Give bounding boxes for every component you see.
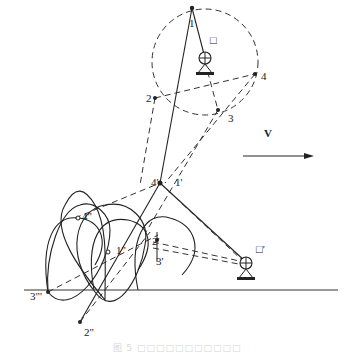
figure-caption: 图 5 □□□□□□□□□□□ <box>0 341 354 354</box>
dashed-construction-lines <box>48 62 255 322</box>
label-4-prime: 4' <box>151 176 159 188</box>
loop-1 <box>46 218 102 292</box>
pivot-bottom-icon <box>237 257 255 280</box>
label-2: 2 <box>146 92 152 104</box>
label-1: 1 <box>189 17 195 29</box>
label-4-double-prime: 4" <box>82 210 92 222</box>
label-pivot-bottom: □' <box>256 243 265 255</box>
pivot-top-icon <box>196 52 214 75</box>
label-3-triple-prime: 3"' <box>30 290 42 302</box>
loop-3 <box>135 217 195 290</box>
label-velocity: V <box>264 127 272 139</box>
label-1-double-prime: 1" <box>116 244 126 256</box>
trajectory-diagram: 1 2 3 4 4' 1' 2' 3' 1" 2" 4" 3"' □ □' V <box>0 0 354 358</box>
label-3: 3 <box>228 112 234 124</box>
coupler-curves <box>48 191 146 301</box>
link-4prime-to-pivot2 <box>160 183 246 262</box>
label-2-prime: 2' <box>152 235 160 247</box>
label-3-prime: 3' <box>156 255 164 267</box>
arrowhead-icon <box>304 153 314 159</box>
link-1-to-pivot <box>192 8 205 58</box>
label-1-prime: 1' <box>175 176 183 188</box>
label-2-double-prime: 2" <box>84 326 94 338</box>
label-4: 4 <box>261 70 267 82</box>
label-pivot-top: □ <box>210 34 217 46</box>
